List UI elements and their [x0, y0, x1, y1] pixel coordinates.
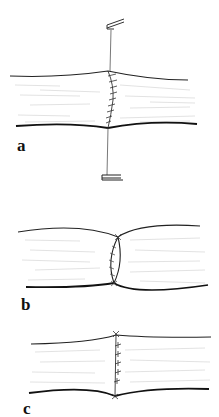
- panel-label-a: a: [17, 137, 26, 154]
- panel-a-lower-edge: [16, 123, 197, 128]
- panel-c-upper-edge: [31, 335, 211, 344]
- panel-c-drawing: [29, 331, 211, 399]
- panel-b-hatching: [22, 238, 205, 283]
- upper-clamp-icon: [107, 19, 124, 29]
- figure-drawing: [0, 0, 219, 417]
- panel-c-lower-edge: [29, 389, 209, 396]
- panel-b-upper-right-edge: [118, 225, 200, 237]
- panel-label-b: b: [21, 296, 30, 313]
- anastomosis-figure: a b c: [0, 0, 219, 417]
- panel-c-suture-line: [115, 335, 116, 396]
- panel-a-drawing: [10, 19, 197, 180]
- panel-b-lower-right-edge: [114, 283, 208, 290]
- panel-a-hatching: [15, 85, 195, 122]
- panel-a-upper-edge: [10, 71, 188, 80]
- panel-label-c: c: [23, 400, 31, 417]
- panel-c-interrupted-stitches: [112, 331, 121, 399]
- lower-clamp-icon: [102, 175, 123, 180]
- panel-b-upper-left-edge: [18, 228, 118, 237]
- panel-b-lower-left-edge: [26, 283, 114, 287]
- upper-traction-thread: [110, 30, 111, 71]
- lower-traction-thread: [107, 128, 108, 175]
- panel-a-stitches: [106, 74, 117, 123]
- panel-b-drawing: [18, 225, 208, 290]
